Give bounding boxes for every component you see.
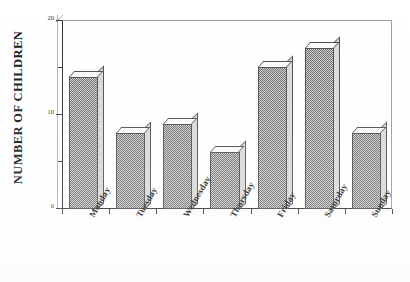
bar-front-face: [305, 48, 334, 209]
bar-front-face: [352, 133, 381, 209]
y-tick-15: [58, 67, 62, 68]
bar-top-face: [69, 71, 104, 77]
y-tick-label-0: 0: [34, 203, 54, 210]
y-tick-5: [58, 161, 62, 162]
bar-wednesday: [163, 124, 192, 209]
bar-top-face: [258, 61, 293, 67]
y-tick-label-20: 20: [34, 15, 54, 22]
y-tick-10: [56, 114, 62, 115]
bar-friday: [258, 67, 287, 209]
x-tick-end: [392, 209, 393, 214]
y-tick-label-10: 10: [34, 109, 54, 116]
x-tick-saturday: [298, 209, 299, 214]
bar-monday: [69, 77, 98, 209]
y-axis-title-label: NUMBER OF CHILDREN: [12, 31, 27, 184]
x-tick-thursday: [203, 209, 204, 214]
x-tick-tuesday: [109, 209, 110, 214]
x-tick-friday: [251, 209, 252, 214]
x-tick-monday: [62, 209, 63, 214]
bar-top-face: [116, 127, 151, 133]
x-tick-wednesday: [156, 209, 157, 214]
bar-top-face: [163, 118, 198, 124]
y-tick-label-0-wrap: 0: [34, 203, 54, 213]
y-tick-20: [56, 20, 62, 21]
y-axis-title: NUMBER OF CHILDREN: [0, 0, 38, 215]
x-tick-sunday: [345, 209, 346, 214]
bar-front-face: [116, 133, 145, 209]
axis-depth-edge: [57, 15, 63, 209]
bar-front-face: [69, 77, 98, 209]
y-tick-label-10-wrap: 10: [34, 109, 54, 119]
bar-chart: NUMBER OF CHILDREN 20 10 0 MondayTuesday…: [0, 0, 410, 282]
bar-top-face: [352, 127, 387, 133]
bar-side-face: [287, 56, 293, 209]
bar-saturday: [305, 48, 334, 209]
bar-sunday: [352, 133, 381, 209]
bar-top-face: [305, 42, 340, 48]
bar-tuesday: [116, 133, 145, 209]
y-tick-label-20-wrap: 20: [34, 15, 54, 25]
bar-front-face: [163, 124, 192, 209]
bar-front-face: [258, 67, 287, 209]
